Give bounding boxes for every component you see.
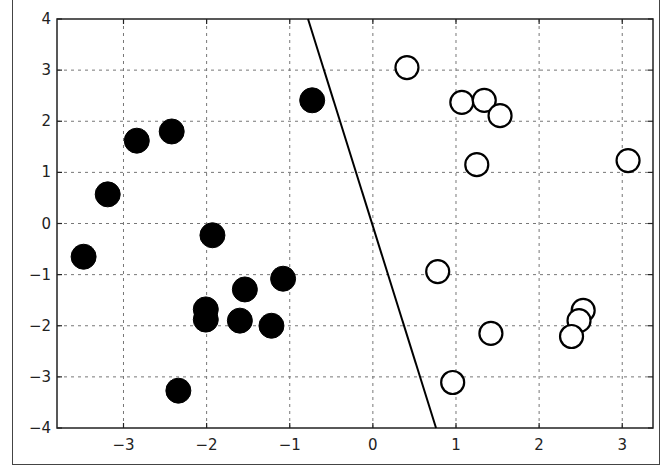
hollow-point-marker (560, 325, 583, 348)
filled-point-marker (166, 378, 191, 403)
y-tick-label: 0 (41, 215, 51, 233)
hollow-point-marker (489, 104, 512, 127)
x-tick-label: 0 (368, 436, 378, 454)
x-tick-label: −3 (112, 436, 134, 454)
y-tick-label: −4 (29, 419, 51, 437)
y-tick-label: 1 (41, 163, 51, 181)
hollow-point-marker (395, 56, 418, 79)
x-tick-label: −1 (279, 436, 301, 454)
data-points (71, 56, 639, 403)
x-tick-label: 1 (451, 436, 461, 454)
filled-point-marker (232, 277, 257, 302)
hollow-point-marker (479, 322, 502, 345)
filled-point-marker (95, 182, 120, 207)
filled-point-marker (193, 307, 218, 332)
y-tick-label: 3 (41, 61, 51, 79)
x-tick-label: 3 (617, 436, 627, 454)
y-tick-label: 4 (41, 10, 51, 28)
hollow-point-marker (465, 153, 488, 176)
y-axis-tick-labels: −4−3−2−101234 (29, 10, 51, 437)
x-tick-label: −2 (196, 436, 218, 454)
y-tick-label: −1 (29, 266, 51, 284)
hollow-point-marker (426, 260, 449, 283)
filled-point-marker (259, 313, 284, 338)
filled-point-marker (71, 244, 96, 269)
filled-point-marker (271, 266, 296, 291)
hollow-point-marker (441, 371, 464, 394)
y-tick-label: 2 (41, 112, 51, 130)
filled-point-marker (200, 223, 225, 248)
filled-point-marker (124, 128, 149, 153)
x-tick-label: 2 (534, 436, 544, 454)
y-tick-label: −2 (29, 317, 51, 335)
scatter-chart: −3−2−10123 −4−3−2−101234 (0, 0, 665, 475)
hollow-point-marker (450, 91, 473, 114)
y-tick-label: −3 (29, 368, 51, 386)
filled-point-marker (300, 88, 325, 113)
filled-point-marker (227, 308, 252, 333)
filled-point-marker (159, 119, 184, 144)
hollow-point-marker (617, 149, 640, 172)
grid-lines (57, 19, 653, 428)
x-axis-tick-labels: −3−2−10123 (112, 436, 627, 454)
